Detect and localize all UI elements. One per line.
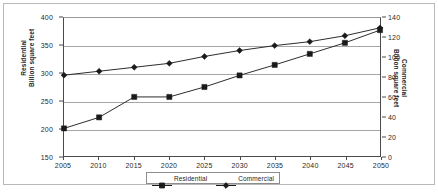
x-axis-tick-label: 2030 bbox=[231, 162, 247, 169]
data-point-marker bbox=[131, 64, 137, 70]
right-axis-tick-mark bbox=[382, 77, 386, 78]
data-point-marker bbox=[342, 40, 347, 45]
data-point-marker bbox=[307, 39, 313, 45]
data-point-marker bbox=[272, 62, 277, 67]
right-axis-tick-label: 0 bbox=[388, 154, 414, 161]
right-axis-tick-label: 40 bbox=[388, 114, 414, 121]
x-axis-tick-mark bbox=[169, 157, 170, 160]
x-axis-tick-mark bbox=[204, 157, 205, 160]
plot-area bbox=[63, 17, 381, 157]
series-residential bbox=[61, 28, 382, 131]
left-axis-tick-label: 400 bbox=[27, 14, 53, 21]
x-axis-tick-label: 2010 bbox=[90, 162, 106, 169]
right-axis-tick-label: 100 bbox=[388, 54, 414, 61]
data-point-marker bbox=[272, 43, 278, 49]
x-axis-tick-label: 2015 bbox=[125, 162, 141, 169]
x-axis-tick-mark bbox=[310, 157, 311, 160]
x-axis-tick-mark bbox=[275, 157, 276, 160]
data-point-marker bbox=[201, 53, 207, 59]
x-axis-tick-mark bbox=[134, 157, 135, 160]
x-axis-tick-label: 2045 bbox=[337, 162, 353, 169]
right-axis-tick-label: 20 bbox=[388, 134, 414, 141]
legend-item-commercial[interactable]: Commercial bbox=[216, 175, 274, 182]
left-axis-tick-label: 200 bbox=[27, 126, 53, 133]
data-point-marker bbox=[237, 73, 242, 78]
data-point-marker bbox=[167, 94, 172, 99]
data-point-marker bbox=[132, 94, 137, 99]
data-point-marker bbox=[61, 126, 66, 131]
legend-diamond-marker-icon bbox=[216, 175, 236, 182]
left-axis-tick-label: 150 bbox=[27, 154, 53, 161]
right-axis-tick-mark bbox=[382, 137, 386, 138]
right-axis-tick-mark bbox=[382, 97, 386, 98]
right-axis-tick-mark bbox=[382, 117, 386, 118]
left-axis-tick-label: 350 bbox=[27, 42, 53, 49]
x-axis-tick-mark bbox=[346, 157, 347, 160]
left-axis-title: Residential Billion square feet bbox=[20, 29, 36, 87]
x-axis-tick-mark bbox=[98, 157, 99, 160]
data-point-marker bbox=[307, 51, 312, 56]
right-axis-tick-mark bbox=[382, 157, 386, 158]
x-axis-tick-label: 2040 bbox=[302, 162, 318, 169]
data-point-marker bbox=[342, 33, 348, 39]
right-axis-tick-mark bbox=[382, 17, 386, 18]
legend-item-label: Commercial bbox=[238, 175, 274, 182]
data-point-marker bbox=[237, 48, 243, 54]
left-axis-title-line2: Billion square feet bbox=[28, 29, 36, 87]
chart-figure: Residential Billion square feet Commerci… bbox=[0, 0, 438, 194]
x-axis-tick-label: 2020 bbox=[161, 162, 177, 169]
x-axis-tick-label: 2050 bbox=[373, 162, 389, 169]
right-axis-tick-mark bbox=[382, 37, 386, 38]
chart-legend: ResidentialCommercial bbox=[146, 172, 280, 184]
right-axis-tick-label: 140 bbox=[388, 14, 414, 21]
legend-item-label: Residential bbox=[174, 175, 207, 182]
right-axis-tick-label: 60 bbox=[388, 94, 414, 101]
x-axis-tick-label: 2035 bbox=[267, 162, 283, 169]
data-point-marker bbox=[166, 60, 172, 66]
left-axis-title-line1: Residential bbox=[20, 29, 28, 87]
data-point-marker bbox=[96, 68, 102, 74]
series-commercial bbox=[61, 25, 383, 78]
right-axis-tick-label: 80 bbox=[388, 74, 414, 81]
legend-square-marker-icon bbox=[152, 175, 172, 182]
x-axis-tick-mark bbox=[63, 157, 64, 160]
data-point-marker bbox=[202, 84, 207, 89]
x-axis-tick-mark bbox=[240, 157, 241, 160]
x-axis-tick-label: 2005 bbox=[55, 162, 71, 169]
x-axis-tick-label: 2025 bbox=[196, 162, 212, 169]
right-axis-tick-mark bbox=[382, 57, 386, 58]
right-axis-tick-label: 120 bbox=[388, 34, 414, 41]
x-axis-tick-mark bbox=[381, 157, 382, 160]
left-axis-tick-label: 300 bbox=[27, 70, 53, 77]
legend-item-residential[interactable]: Residential bbox=[152, 175, 207, 182]
data-point-marker bbox=[97, 115, 102, 120]
left-axis-tick-label: 250 bbox=[27, 98, 53, 105]
series-layer bbox=[64, 18, 380, 156]
